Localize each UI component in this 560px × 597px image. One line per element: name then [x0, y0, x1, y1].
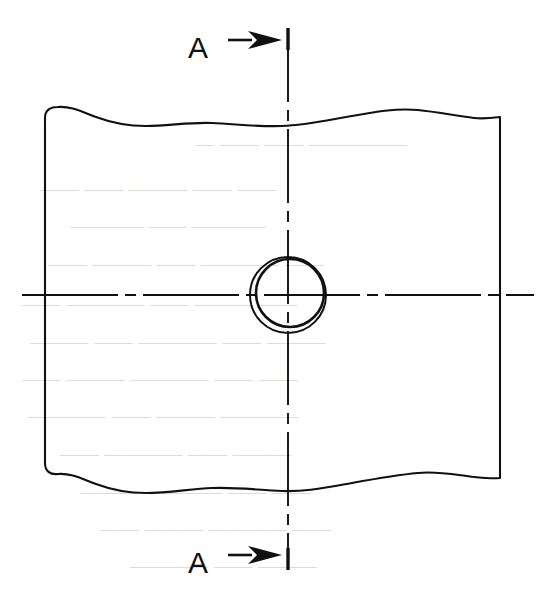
technical-drawing-canvas: — —— —— ——————— —— ——— —— —————— —— ————…	[0, 0, 560, 597]
showthrough-line: ———— —— ——— ————	[27, 405, 299, 426]
section-label-top: A	[188, 31, 208, 64]
section-view-drawing: — —— —— ——————— —— ——— —— —————— —— ————…	[0, 0, 560, 597]
section-label-bottom: A	[188, 546, 208, 579]
showthrough-line: —— ——— ———— ——	[99, 518, 332, 539]
showthrough-line: —— ——— ———— —— ——	[21, 368, 299, 389]
showthrough-line: ——— —— ———— —— ———	[29, 331, 326, 352]
showthrough-line: —— ——— —— ———— ——	[47, 253, 325, 274]
showthrough-line: — —— —— —————	[194, 133, 407, 154]
showthrough-line: —— ———— —— ———	[59, 443, 292, 464]
showthrough-line: —— —— ——— —— ——	[39, 178, 277, 199]
showthrough-line: ———— —— ————	[69, 216, 267, 236]
